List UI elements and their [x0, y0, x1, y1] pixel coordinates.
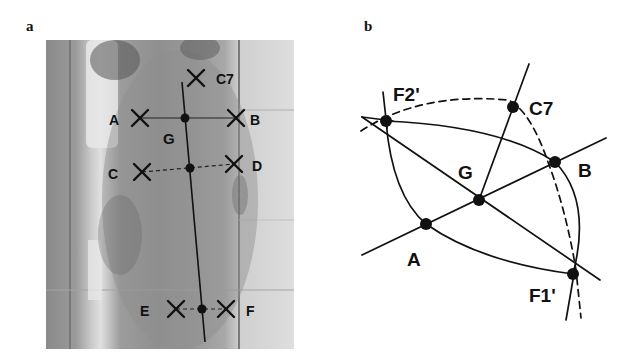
point-a — [420, 218, 432, 230]
label-a: A — [109, 112, 119, 128]
label-f1-prime: F1' — [529, 285, 556, 306]
label-a: A — [407, 249, 421, 270]
dot-g — [181, 114, 190, 123]
point-f1 — [567, 268, 579, 280]
dot-cd-mid — [186, 164, 195, 173]
arc-f2-a — [386, 121, 426, 224]
arc-f2-b — [386, 121, 555, 162]
panel-label-a: a — [26, 18, 34, 35]
point-g — [473, 194, 485, 206]
dot-ef-mid — [198, 305, 207, 314]
label-d: D — [252, 158, 262, 174]
arc-a-f1 — [426, 224, 573, 274]
point-f2 — [380, 115, 392, 127]
label-c: C — [108, 166, 118, 182]
label-f2-prime: F2' — [393, 84, 420, 105]
point-c7 — [507, 101, 519, 113]
diagram-svg: F2' C7 G B A F1' — [330, 0, 634, 360]
point-b — [549, 156, 561, 168]
line-c7-g — [479, 64, 529, 200]
label-e: E — [140, 303, 149, 319]
photo-overlay: C7 A B G C D E F — [46, 40, 294, 349]
label-b: B — [250, 112, 260, 128]
label-c7: C7 — [216, 71, 234, 87]
label-c7: C7 — [529, 98, 553, 119]
back-photograph: C7 A B G C D E F — [46, 40, 294, 349]
label-b: B — [578, 160, 592, 181]
label-f: F — [246, 303, 255, 319]
label-g: G — [163, 130, 175, 147]
label-g: G — [458, 162, 473, 183]
geometric-diagram: F2' C7 G B A F1' — [330, 0, 634, 360]
